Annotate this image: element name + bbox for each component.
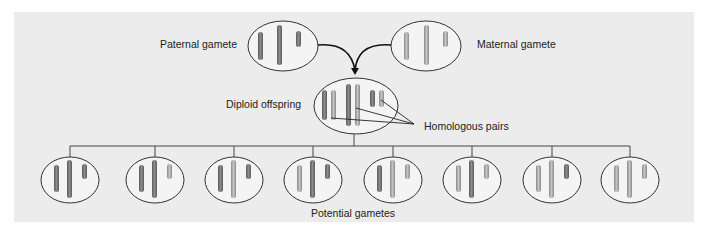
maternal-gamete [391,21,461,71]
paternal-arrow [318,45,355,70]
arrowhead-icon [351,68,359,75]
maternal-arrow [355,45,391,70]
paternal-gamete [248,21,318,71]
diploid-offspring [314,78,414,134]
paternal-gamete-label: Paternal gamete [160,38,237,50]
meiosis-diagram [0,0,706,234]
homologous-pairs-label: Homologous pairs [424,120,509,132]
potential-gametes-label: Potential gametes [311,207,395,219]
potential-gametes [41,146,659,203]
maternal-gamete-label: Maternal gamete [477,38,556,50]
diploid-offspring-label: Diploid offspring [226,98,301,110]
